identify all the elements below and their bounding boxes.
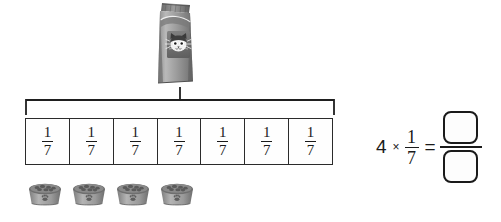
brace-bracket-icon: [22, 86, 338, 118]
fraction-denominator: 7: [219, 142, 227, 158]
fraction-cell: 1 7: [289, 119, 332, 164]
pet-food-bowl-icon: [25, 181, 65, 209]
fraction-cell: 1 7: [245, 119, 289, 164]
fraction-denominator: 7: [307, 142, 315, 158]
fraction-numerator: 1: [88, 125, 96, 141]
fraction-one-seventh: 1 7: [130, 125, 141, 158]
fraction-cell: 1 7: [114, 119, 158, 164]
fraction-numerator: 1: [44, 125, 52, 141]
fraction-numerator: 1: [307, 125, 315, 141]
answer-fraction-rule: [440, 146, 482, 149]
fraction-denominator: 7: [88, 142, 96, 158]
equation: 4 × 1 7 =: [376, 106, 496, 188]
fraction-cell: 1 7: [201, 119, 245, 164]
fraction-bar: 1 7 1 7 1 7 1 7: [25, 118, 333, 165]
pet-food-bowl-icon: [113, 181, 153, 209]
equals-sign: =: [425, 136, 436, 158]
answer-fraction: [440, 111, 482, 184]
fraction-cell: 1 7: [26, 119, 70, 164]
equation-multiplier: 4: [376, 136, 387, 158]
fraction-numerator: 1: [131, 125, 139, 141]
worksheet-canvas: 1 7 1 7 1 7 1 7: [0, 0, 501, 222]
fraction-cell: 1 7: [70, 119, 114, 164]
cat-food-bag-icon: [154, 2, 196, 86]
answer-denominator-box[interactable]: [443, 150, 478, 183]
fraction-denominator: 7: [44, 142, 52, 158]
fraction-one-seventh: 1 7: [261, 125, 272, 158]
fraction-one-seventh: 1 7: [305, 125, 316, 158]
fraction-denominator: 7: [175, 142, 183, 158]
pet-food-bowl-icon: [157, 181, 197, 209]
fraction-numerator: 1: [263, 125, 271, 141]
fraction-numerator: 1: [175, 125, 183, 141]
equation-fraction-denominator: 7: [407, 149, 416, 167]
fraction-numerator: 1: [219, 125, 227, 141]
fraction-one-seventh: 1 7: [174, 125, 185, 158]
fraction-denominator: 7: [263, 142, 271, 158]
fraction-one-seventh: 1 7: [217, 125, 228, 158]
equation-fraction-numerator: 1: [407, 128, 416, 146]
fraction-one-seventh: 1 7: [86, 125, 97, 158]
fraction-one-seventh: 1 7: [42, 125, 53, 158]
fraction-denominator: 7: [131, 142, 139, 158]
fraction-cell: 1 7: [158, 119, 202, 164]
answer-numerator-box[interactable]: [443, 111, 478, 144]
multiplication-sign: ×: [393, 140, 400, 154]
pet-bowl-group: [25, 181, 205, 211]
pet-food-bowl-icon: [69, 181, 109, 209]
equation-fraction: 1 7: [405, 128, 419, 168]
